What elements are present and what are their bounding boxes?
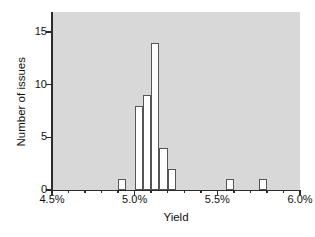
x-minor-tick <box>101 190 103 193</box>
x-minor-tick <box>250 190 252 193</box>
histogram-bar <box>143 95 151 190</box>
x-minor-tick <box>117 190 119 193</box>
x-axis-title: Yield <box>52 212 300 224</box>
x-minor-tick <box>266 190 268 193</box>
histogram-bar <box>168 169 176 190</box>
histogram-chart: 051015 4.5%5.0%5.5%6.0% Number of issues… <box>0 0 315 237</box>
x-minor-tick <box>283 190 285 193</box>
x-tick-label-5.0%: 5.0% <box>105 194 165 205</box>
y-axis-line <box>51 12 53 191</box>
x-minor-tick <box>167 190 169 193</box>
x-minor-tick <box>184 190 186 193</box>
x-tick-label-4.5%: 4.5% <box>22 194 82 205</box>
x-minor-tick <box>84 190 86 193</box>
histogram-bar <box>118 179 126 190</box>
x-minor-tick <box>68 190 70 193</box>
histogram-bar <box>259 179 267 190</box>
histogram-bar <box>159 148 167 190</box>
y-axis-title: Number of issues <box>16 27 28 177</box>
x-minor-tick <box>233 190 235 193</box>
histogram-bar <box>151 43 159 190</box>
x-tick-label-6.0%: 6.0% <box>270 194 315 205</box>
histogram-bar <box>226 179 234 190</box>
histogram-bar <box>135 106 143 190</box>
plot-area-background <box>52 12 300 190</box>
x-tick-label-5.5%: 5.5% <box>187 194 247 205</box>
x-minor-tick <box>150 190 152 193</box>
x-minor-tick <box>200 190 202 193</box>
